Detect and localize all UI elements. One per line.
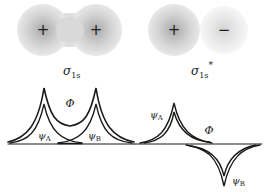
nucleus-b-plus-sign: + [90,21,103,39]
mo-diagram: + + σ1s + − σ1s* Φ ψA ψB [0,0,266,192]
sigma-1s-star-orbital-cloud: + − [148,4,248,56]
sigma-1s-label: σ1s [63,64,80,80]
sigma-1s-orbital-cloud: + + [17,4,122,56]
psi-a-label-bonding: ψA [38,130,52,143]
nucleus-a-plus-sign: + [168,21,181,39]
psi-b-label-antibonding: ψB [232,175,245,188]
sigma-1s-star-label: σ1s* [191,60,213,80]
phi-label-bonding: Φ [65,97,74,110]
psi-b-curve [186,145,260,186]
nucleus-a-plus-sign: + [37,21,50,39]
psi-a-label-antibonding: ψA [150,109,164,122]
nucleus-b-minus-sign: − [218,21,231,39]
psi-b-label-bonding: ψB [88,130,101,143]
phi-label-antibonding: Φ [204,124,213,137]
